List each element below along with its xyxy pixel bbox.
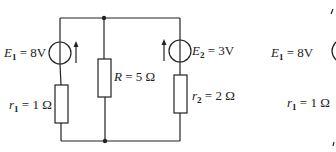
- e2-subscript: 2: [200, 50, 205, 60]
- partial-r1-value: 1 Ω: [310, 95, 329, 110]
- r2-subscript: 2: [197, 95, 202, 105]
- partial-e1-value: 8V: [297, 45, 313, 60]
- e1-label: E1 = 8V: [4, 46, 46, 62]
- r-resistor-icon: [98, 59, 111, 97]
- partial-r1-equals: =: [300, 95, 307, 110]
- partial-e1-subscript: 1: [279, 52, 284, 62]
- r1-label: r1 = 1 Ω: [9, 98, 52, 114]
- r1-value: 1 Ω: [32, 97, 51, 112]
- partial-r1-label: r1 = 1 Ω: [287, 96, 330, 112]
- e1-equals: =: [20, 45, 27, 60]
- e1-value: 8V: [30, 45, 46, 60]
- r2-equals: =: [205, 88, 212, 103]
- partial-r1-subscript: 1: [292, 102, 297, 112]
- e1-symbol: E: [4, 45, 12, 60]
- r1-subscript: 1: [14, 104, 19, 114]
- r1-resistor-icon: [55, 85, 68, 123]
- r-value: 5 Ω: [136, 69, 155, 84]
- r1-equals: =: [22, 97, 29, 112]
- partial-source-arc: [332, 42, 336, 60]
- e1-arrow-head-icon: [74, 41, 79, 47]
- e2-arrow-head-icon: [162, 39, 167, 45]
- junction-bottom-dot: [103, 139, 107, 143]
- junction-top-dot: [102, 16, 106, 20]
- r-equals: =: [125, 69, 132, 84]
- r-label: R = 5 Ω: [114, 70, 155, 83]
- left-branch-wire-mid: [60, 64, 61, 85]
- e2-value: 3V: [218, 43, 234, 58]
- partial-e1-label: E1 = 8V: [271, 46, 313, 62]
- r2-label: r2 = 2 Ω: [192, 89, 235, 105]
- r2-resistor-icon: [174, 75, 187, 113]
- e2-equals: =: [208, 43, 215, 58]
- circuit-diagram: [0, 0, 336, 152]
- partial-e1-symbol: E: [271, 45, 279, 60]
- e1-subscript: 1: [12, 52, 17, 62]
- partial-e1-equals: =: [287, 45, 294, 60]
- partial-bottom-stroke: [333, 142, 334, 146]
- e2-label: E2 = 3V: [192, 44, 234, 60]
- r2-value: 2 Ω: [215, 88, 234, 103]
- r-symbol: R: [114, 69, 122, 84]
- partial-top-stroke: [331, 9, 333, 14]
- e2-symbol: E: [192, 43, 200, 58]
